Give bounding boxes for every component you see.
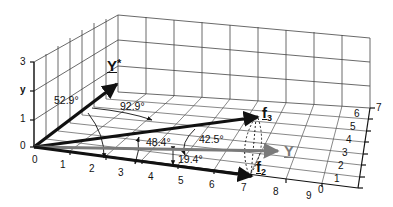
x-tick-2: 2 <box>89 164 95 174</box>
x-tick-5: 5 <box>178 176 184 186</box>
x-tick-6: 6 <box>209 180 215 190</box>
z-tick-5: 5 <box>350 122 356 132</box>
x-tick-4: 4 <box>148 172 154 182</box>
z-tick-1: 1 <box>334 174 340 184</box>
x-tick-0: 0 <box>32 155 38 165</box>
angle-label-52-9: 52.9° <box>54 95 79 106</box>
label-y-star: Y* <box>107 58 121 73</box>
x-tick-3: 3 <box>118 168 124 178</box>
x-tick-8: 8 <box>273 187 279 197</box>
label-f3: f3 <box>262 105 272 123</box>
z-tick-2: 2 <box>338 161 344 171</box>
z-tick-4: 4 <box>346 135 352 145</box>
z-tick-7: 7 <box>376 103 382 113</box>
z-tick-3: 3 <box>342 148 348 158</box>
left-wall-grid <box>34 15 118 147</box>
angle-label-19-4: 19.4° <box>178 154 203 165</box>
y-tick-3: 3 <box>20 57 26 67</box>
z-tick-0: 0 <box>318 185 324 195</box>
back-wall-grid <box>118 15 370 108</box>
angle-label-92-9: 92.9° <box>120 101 145 112</box>
label-y: Y <box>284 143 294 158</box>
z-tick-6: 6 <box>354 109 360 119</box>
angle-label-48-4: 48.4° <box>146 137 171 148</box>
x-tick-9: 9 <box>306 191 312 201</box>
y-tick-1: 1 <box>20 114 26 124</box>
y-axis-label: y <box>20 85 26 95</box>
x-tick-7: 7 <box>241 183 247 193</box>
angle-label-42-5: 42.5° <box>199 134 224 145</box>
label-f2: f2 <box>256 159 266 177</box>
x-tick-1: 1 <box>60 160 66 170</box>
y-tick-0: 0 <box>20 141 26 151</box>
